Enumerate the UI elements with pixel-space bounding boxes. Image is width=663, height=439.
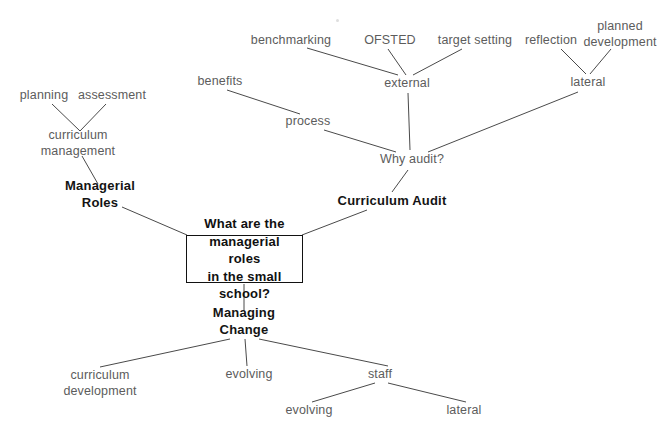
edge-target-setting-to-external (413, 49, 462, 75)
node-managerial-roles[interactable]: Managerial Roles (65, 178, 135, 212)
node-curriculum-development-line1: curriculum (63, 367, 136, 383)
node-lateral-top[interactable]: lateral (570, 75, 605, 90)
node-lateral-low[interactable]: lateral (446, 403, 481, 418)
edge-managing-change-to-curriculum-development (100, 339, 230, 367)
edge-reflection-to-lateral-top (561, 49, 586, 74)
central-question-box[interactable]: What are the managerial roles in the sma… (186, 235, 303, 283)
node-evolving-low[interactable]: evolving (285, 403, 332, 418)
edge-lateral-top-to-why-audit (428, 92, 578, 152)
scan-artifact-speck (336, 19, 339, 22)
node-curriculum-management[interactable]: curriculum management (41, 127, 115, 160)
node-planned-development-line1: planned (583, 18, 656, 34)
node-managing-change-line1: Managing (213, 305, 275, 322)
node-why-audit[interactable]: Why audit? (380, 152, 444, 167)
central-question-line2: managerial roles (195, 233, 294, 268)
edge-staff-to-evolving-low (312, 383, 375, 402)
node-curriculum-management-line2: management (41, 143, 115, 159)
edge-staff-to-lateral-low (388, 383, 466, 402)
node-curriculum-management-line1: curriculum (41, 127, 115, 143)
node-evolving-mid[interactable]: evolving (225, 367, 272, 382)
edge-external-to-why-audit (408, 93, 410, 150)
node-target-setting[interactable]: target setting (438, 33, 512, 48)
node-staff[interactable]: staff (368, 367, 392, 382)
node-planned-development[interactable]: planned development (583, 18, 656, 51)
node-managing-change-line2: Change (213, 322, 275, 339)
concept-map-canvas: planning assessment curriculum managemen… (0, 0, 663, 439)
node-planning[interactable]: planning (20, 88, 68, 103)
node-ofsted[interactable]: OFSTED (364, 33, 416, 48)
node-assessment[interactable]: assessment (78, 88, 146, 103)
edge-benefits-to-process (227, 90, 300, 114)
edge-process-to-why-audit (324, 130, 396, 152)
node-benchmarking[interactable]: benchmarking (251, 33, 331, 48)
node-managing-change[interactable]: Managing Change (213, 305, 275, 339)
edge-why-audit-to-curriculum-audit (392, 170, 408, 192)
node-curriculum-development[interactable]: curriculum development (63, 367, 136, 400)
node-curriculum-audit[interactable]: Curriculum Audit (338, 193, 447, 209)
edge-benchmarking-to-external (307, 48, 398, 75)
edge-curriculum-audit-to-central (302, 210, 367, 235)
node-benefits[interactable]: benefits (198, 74, 243, 89)
edge-managing-change-to-staff (259, 339, 388, 366)
node-curriculum-development-line2: development (63, 383, 136, 399)
edge-planned-development-to-lateral-top (590, 49, 611, 74)
node-planned-development-line2: development (583, 34, 656, 50)
edge-managing-change-to-evolving-mid (245, 339, 247, 366)
edge-ofsted-to-external (388, 49, 406, 75)
node-reflection[interactable]: reflection (525, 33, 577, 48)
node-managerial-roles-line1: Managerial (65, 178, 135, 195)
central-question-line3: in the small school? (195, 268, 294, 303)
node-managerial-roles-line2: Roles (65, 195, 135, 212)
node-external[interactable]: external (384, 76, 430, 91)
central-question-line1: What are the (195, 215, 294, 233)
node-process[interactable]: process (286, 114, 331, 129)
